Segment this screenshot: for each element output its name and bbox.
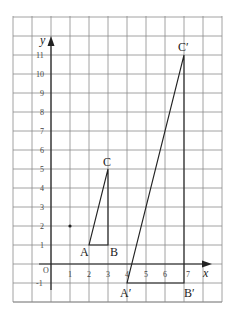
point-b-prime-label: B′ <box>184 286 195 300</box>
point-c-prime-label: C′ <box>178 40 189 54</box>
y-tick: -1 <box>36 279 43 288</box>
y-tick: 10 <box>36 70 44 79</box>
x-tick: 2 <box>87 270 91 279</box>
center-of-enlargement-point <box>68 224 71 227</box>
point-c-label: C <box>103 155 111 169</box>
x-tick: 6 <box>163 270 167 279</box>
coordinate-diagram: x y O 1 2 3 4 5 6 7 -1 1 2 3 4 5 6 7 8 9… <box>0 0 234 319</box>
x-axis-label: x <box>202 266 209 280</box>
y-tick: 3 <box>40 203 44 212</box>
y-tick: 7 <box>40 127 44 136</box>
y-tick: 9 <box>40 89 44 98</box>
point-a-label: A <box>80 245 89 259</box>
y-tick: 8 <box>40 108 44 117</box>
x-tick: 7 <box>186 270 190 279</box>
y-tick: 5 <box>40 165 44 174</box>
y-tick: 11 <box>36 51 44 60</box>
y-tick-labels: -1 1 2 3 4 5 6 7 8 9 10 11 <box>36 51 44 288</box>
y-axis-label: y <box>39 33 46 47</box>
x-tick: 5 <box>144 270 148 279</box>
y-tick: 1 <box>40 241 44 250</box>
point-b-label: B <box>110 245 118 259</box>
y-tick: 6 <box>40 146 44 155</box>
y-tick: 2 <box>40 222 44 231</box>
x-tick: 1 <box>68 270 72 279</box>
y-tick: 4 <box>40 184 44 193</box>
origin-label: O <box>43 266 49 275</box>
y-axis-arrow-icon <box>48 36 55 46</box>
point-a-prime-label: A′ <box>120 286 132 300</box>
grid <box>13 16 222 302</box>
x-tick: 3 <box>106 270 110 279</box>
